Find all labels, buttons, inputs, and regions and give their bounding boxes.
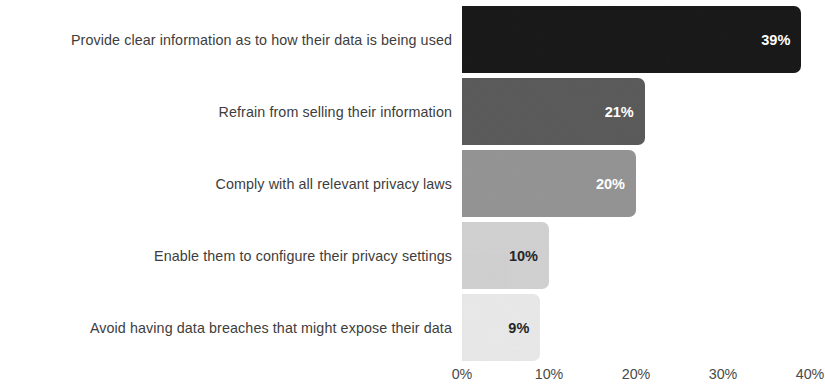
x-axis-tick: 0% — [452, 366, 473, 382]
x-axis-tick: 10% — [535, 366, 564, 382]
bar-track: 10% — [462, 222, 825, 289]
x-axis-tick: 40% — [796, 366, 825, 382]
bar: 39% — [462, 6, 801, 73]
category-label: Comply with all relevant privacy laws — [216, 150, 453, 217]
bar-value-label: 20% — [596, 176, 625, 192]
bar: 10% — [462, 222, 549, 289]
bar-value-label: 10% — [509, 248, 538, 264]
bar-rows: Provide clear information as to how thei… — [0, 6, 825, 366]
bar: 9% — [462, 294, 540, 361]
category-label: Refrain from selling their information — [219, 78, 452, 145]
bar-track: 9% — [462, 294, 825, 361]
category-label: Provide clear information as to how thei… — [71, 6, 452, 73]
x-axis: 0% 10% 20% 30% 40% — [462, 366, 810, 388]
bar: 20% — [462, 150, 636, 217]
bar-value-label: 21% — [605, 104, 634, 120]
bar-value-label: 39% — [761, 32, 790, 48]
x-axis-tick: 20% — [622, 366, 651, 382]
bar-row: Refrain from selling their information 2… — [0, 78, 825, 145]
bar-track: 21% — [462, 78, 825, 145]
category-label: Avoid having data breaches that might ex… — [90, 294, 452, 361]
bar-row: Enable them to configure their privacy s… — [0, 222, 825, 289]
bar-track: 39% — [462, 6, 825, 73]
category-label: Enable them to configure their privacy s… — [154, 222, 452, 289]
bar-row: Avoid having data breaches that might ex… — [0, 294, 825, 361]
x-axis-tick: 30% — [709, 366, 738, 382]
bar-value-label: 9% — [508, 320, 529, 336]
bar-row: Comply with all relevant privacy laws 20… — [0, 150, 825, 217]
bar-track: 20% — [462, 150, 825, 217]
plot-area: Provide clear information as to how thei… — [0, 0, 825, 392]
bar-chart: Provide clear information as to how thei… — [0, 0, 825, 392]
bar-row: Provide clear information as to how thei… — [0, 6, 825, 73]
bar: 21% — [462, 78, 645, 145]
